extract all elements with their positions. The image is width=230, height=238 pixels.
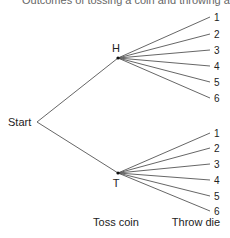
node-h (116, 56, 119, 59)
stage-label-0: Toss coin (93, 216, 139, 228)
leaf-label-t-1: 1 (214, 128, 220, 139)
leaf-label-t-2: 2 (214, 143, 220, 154)
edge-t-to-1 (118, 133, 210, 173)
edge-start-to-t (37, 122, 118, 173)
coin-die-tree-diagram: Start123456H123456TToss coinThrow die (0, 0, 230, 238)
leaf-label-h-3: 3 (214, 45, 220, 56)
leaf-label-h-1: 1 (214, 12, 220, 23)
edge-start-to-h (37, 58, 118, 122)
node-t (116, 171, 119, 174)
edge-t-to-3 (118, 164, 210, 173)
leaf-label-h-5: 5 (214, 77, 220, 88)
leaf-label-h-6: 6 (214, 93, 220, 104)
leaf-label-t-3: 3 (214, 159, 220, 170)
edge-t-to-2 (118, 148, 210, 173)
leaf-label-t-4: 4 (214, 175, 220, 186)
stage-label-1: Throw die (172, 216, 220, 228)
leaf-label-h-2: 2 (214, 29, 220, 40)
branch-label-t: T (113, 177, 120, 189)
branch-label-h: H (112, 42, 120, 54)
leaf-label-h-4: 4 (214, 61, 220, 72)
root-label-start: Start (8, 116, 31, 128)
leaf-label-t-5: 5 (214, 191, 220, 202)
